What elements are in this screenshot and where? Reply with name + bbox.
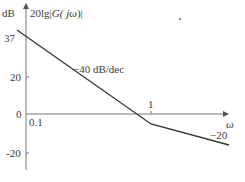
- x-tick-label-0-1: 0.1: [29, 116, 43, 128]
- slope-label-20: −20: [210, 129, 228, 141]
- y-tick-label-20: 20: [10, 71, 22, 83]
- magnitude-asymptote: [17, 30, 229, 145]
- y-axis-title: 20lg|G( jω)|: [30, 7, 83, 20]
- y-tick-label-0: 0: [16, 108, 22, 120]
- y-tick-label-neg20: -20: [6, 147, 21, 159]
- slope-label-40: −40 dB/dec: [73, 63, 124, 75]
- y-unit-label: dB: [2, 7, 15, 19]
- bode-plot: dB 20lg|G( jω)| 37 20 0 -20 0.1 1 ω −40 …: [0, 0, 245, 182]
- y-tick-label-37: 37: [4, 32, 16, 44]
- x-tick-label-1: 1: [148, 98, 154, 110]
- dot-mark: [179, 18, 181, 20]
